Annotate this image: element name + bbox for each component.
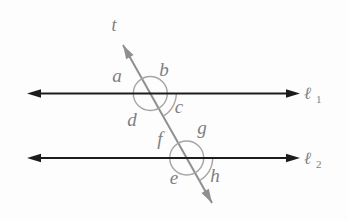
line-1-left-arrowhead-icon	[27, 89, 41, 97]
transversal-top-arrowhead-icon	[123, 45, 134, 59]
line-1-label-subscript: 1	[316, 93, 322, 105]
angle-label-c: c	[175, 96, 184, 117]
angle-label-b: b	[159, 59, 169, 80]
line-2-label-ell: ℓ	[304, 149, 311, 168]
angle-label-d: d	[127, 109, 137, 130]
parallel-lines-transversal-diagram: t a b c d f g h e ℓ 1 ℓ 2	[0, 0, 348, 221]
line-1-label-ell: ℓ	[304, 84, 311, 103]
angle-label-g: g	[197, 117, 207, 138]
line-2-left-arrowhead-icon	[27, 154, 41, 162]
angle-label-e: e	[170, 167, 178, 188]
line-2-right-arrowhead-icon	[286, 154, 300, 162]
angle-label-f: f	[157, 128, 165, 149]
diagram-canvas: t a b c d f g h e ℓ 1 ℓ 2	[0, 0, 348, 221]
angle-label-h: h	[210, 165, 220, 186]
line-1-label: ℓ 1	[304, 84, 322, 105]
transversal-label: t	[111, 15, 117, 35]
line-2-label-subscript: 2	[316, 158, 322, 170]
angle-label-a: a	[112, 65, 122, 86]
transversal-bottom-arrowhead-icon	[202, 189, 213, 203]
line-2-label: ℓ 2	[304, 149, 322, 170]
line-1-right-arrowhead-icon	[286, 89, 300, 97]
